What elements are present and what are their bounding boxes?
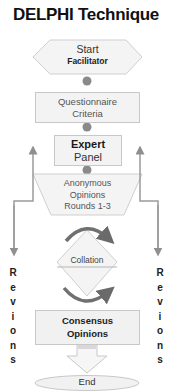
right-letter: s (154, 353, 166, 368)
start-node: Start Facilitator (33, 43, 142, 67)
left-revision-arrow (14, 150, 33, 252)
consensus-opinions-node: Consensus Opinions (35, 310, 140, 345)
criteria-label: Criteria (72, 108, 103, 120)
right-letter: R (154, 266, 166, 281)
connector-dot-3 (83, 166, 92, 175)
right-revision-arrow (140, 150, 158, 252)
connector-dot-1 (83, 77, 92, 86)
right-letter: n (154, 339, 166, 354)
right-letter: v (154, 295, 166, 310)
right-letter: o (154, 324, 166, 339)
opinions-label: Opinions (40, 190, 135, 202)
questionnaire-criteria-node: Questionnaire Criteria (35, 92, 140, 123)
anonymous-label: Anonymous (40, 178, 135, 190)
right-letter: i (154, 310, 166, 325)
expert-label: Expert (71, 138, 105, 151)
down-block-arrow (67, 345, 107, 373)
consensus-opinions-label: Opinions (67, 328, 108, 341)
left-letter: e (7, 281, 19, 296)
collation-label: Collation (57, 256, 117, 266)
down-arrow-shadow (78, 345, 96, 349)
right-revisions-label: R e v i o n s (154, 266, 166, 368)
expert-panel-node: Expert Panel (54, 135, 122, 166)
panel-label: Panel (74, 151, 102, 164)
rounds-label: Rounds 1-3 (40, 201, 135, 213)
anonymous-opinions-node: Anonymous Opinions Rounds 1-3 (40, 178, 135, 213)
right-letter: e (154, 281, 166, 296)
left-letter: v (7, 295, 19, 310)
end-label: End (35, 377, 139, 388)
left-letter: i (7, 310, 19, 325)
left-letter: n (7, 339, 19, 354)
connector-dot-2 (83, 123, 92, 132)
start-label: Start (33, 43, 142, 55)
questionnaire-label: Questionnaire (58, 96, 117, 108)
consensus-label: Consensus (62, 315, 113, 328)
left-revisions-label: R e v i o n s (7, 266, 19, 368)
left-letter: s (7, 353, 19, 368)
left-letter: o (7, 324, 19, 339)
left-letter: R (7, 266, 19, 281)
facilitator-label: Facilitator (33, 57, 142, 67)
